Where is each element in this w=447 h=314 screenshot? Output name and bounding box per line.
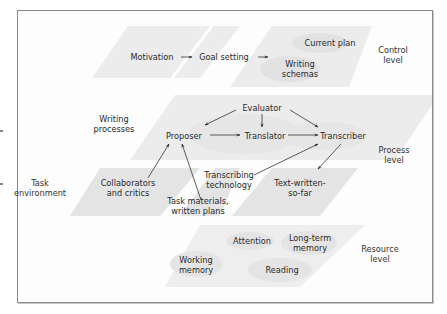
working-memory-node: Working memory (179, 255, 213, 275)
transcribing-technology-node: Transcribing technology (204, 170, 254, 190)
motivation-node: Motivation (130, 52, 173, 62)
process-level-label: Process level (378, 145, 409, 165)
writing-schemas-node: Writing schemas (282, 59, 318, 79)
text-written-node: Text-written- so-far (274, 178, 325, 198)
current-plan-node: Current plan (304, 38, 355, 48)
attention-node: Attention (233, 236, 271, 246)
task-environment-label: Task environment (14, 178, 66, 198)
long-term-memory-node: Long-term memory (289, 233, 331, 253)
transcriber-node: Transcriber (320, 131, 365, 141)
proposer-node: Proposer (166, 131, 202, 141)
evaluator-node: Evaluator (242, 103, 281, 113)
control-level-label: Control level (378, 45, 408, 65)
collaborators-node: Collaborators and critics (101, 178, 156, 198)
translator-node: Translator (245, 131, 286, 141)
goal-setting-node: Goal setting (199, 52, 249, 62)
writing-processes-label: Writing processes (94, 114, 135, 134)
reading-node: Reading (265, 265, 298, 275)
task-materials-node: Task materials, written plans (167, 196, 228, 216)
resource-level-label: Resource level (361, 244, 399, 264)
